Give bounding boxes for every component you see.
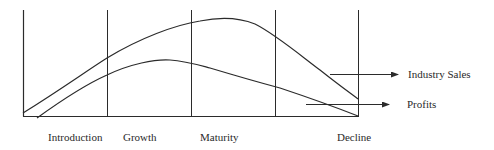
stage-label-decline: Decline <box>337 132 371 143</box>
stage-label-growth: Growth <box>123 132 157 143</box>
stage-label-maturity: Maturity <box>200 132 239 143</box>
profits-curve <box>37 60 358 118</box>
legend-profits: Profits <box>407 99 436 110</box>
legend-industry-sales: Industry Sales <box>408 69 471 80</box>
stage-label-introduction: Introduction <box>48 132 102 143</box>
industry-sales-curve <box>23 19 358 113</box>
